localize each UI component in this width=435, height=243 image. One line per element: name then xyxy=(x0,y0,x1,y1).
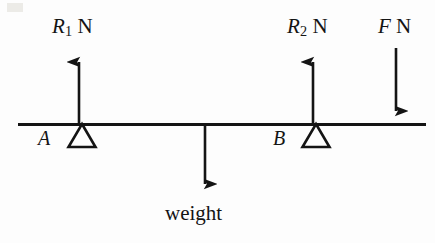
label-force-f: F N xyxy=(378,16,411,37)
label-r1-symbol: R xyxy=(52,14,65,38)
label-support-a: A xyxy=(38,128,50,148)
label-reaction-r1: R1 N xyxy=(52,16,93,38)
label-support-b: B xyxy=(273,128,285,148)
label-reaction-r2: R2 N xyxy=(287,16,328,38)
label-r2-unit: N xyxy=(313,14,328,38)
support-triangle-a xyxy=(69,124,96,147)
label-r1-subscript: 1 xyxy=(65,23,72,39)
label-weight: weight xyxy=(165,203,222,224)
force-diagram: R1 N R2 N F N A B weight xyxy=(0,0,435,243)
label-f-symbol: F xyxy=(378,14,391,38)
label-f-unit: N xyxy=(396,14,411,38)
label-r1-unit: N xyxy=(78,14,93,38)
label-r2-subscript: 2 xyxy=(300,23,307,39)
support-triangle-b xyxy=(303,124,330,147)
label-r2-symbol: R xyxy=(287,14,300,38)
